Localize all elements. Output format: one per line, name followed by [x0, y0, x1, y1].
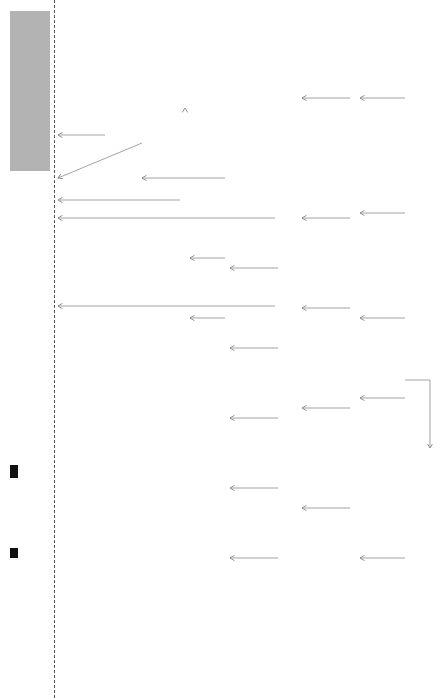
unused14 [10, 466, 18, 476]
row-header-purpose [10, 11, 50, 171]
row-divider [54, 0, 55, 698]
unused2 [10, 548, 18, 558]
benefit-map-diagram [0, 0, 448, 698]
connector-arrows [0, 0, 448, 698]
